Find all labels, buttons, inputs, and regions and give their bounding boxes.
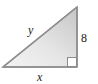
right-triangle-figure: y x 8 — [0, 0, 98, 84]
vertical-leg-label: 8 — [81, 32, 87, 44]
right-angle-marker-icon — [68, 58, 77, 67]
hypotenuse-label: y — [28, 24, 33, 36]
base-label: x — [37, 71, 42, 83]
